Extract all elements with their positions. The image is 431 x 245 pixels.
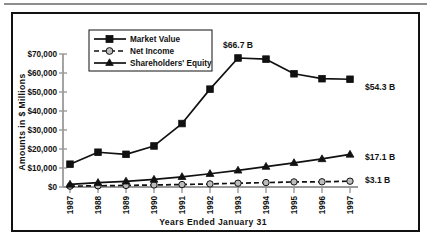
data-point [291,70,298,77]
x-tick-1992: 1992 [206,196,215,215]
data-point [123,151,130,158]
data-point [235,55,242,62]
series-market-value [67,55,354,168]
x-axis-tick-labels: 1987 1988 1989 1990 1991 1992 1993 1994 … [66,196,355,215]
chart-frame: $70,000 $60,000 $50,000 $40,000 $30,000 … [11,12,420,232]
x-tick-1987: 1987 [66,196,75,215]
data-point [319,75,326,82]
y-tick-0: $0 [48,183,58,192]
line-chart: $70,000 $60,000 $50,000 $40,000 $30,000 … [13,14,418,230]
x-tick-1990: 1990 [150,196,159,215]
data-point [207,181,213,187]
data-point [67,161,74,168]
x-tick-1989: 1989 [122,196,131,215]
y-tick-40000: $40,000 [27,107,57,116]
annotation-net-income-end: $3.1 B [365,175,390,185]
x-tick-1991: 1991 [178,196,187,215]
x-tick-1994: 1994 [262,196,271,215]
data-point [207,86,214,93]
data-point [151,143,158,150]
data-point [346,150,354,157]
x-tick-1996: 1996 [318,196,327,215]
y-tick-20000: $20,000 [27,145,57,154]
y-tick-50000: $50,000 [27,88,57,97]
legend-label-shareholders-equity: Shareholders' Equity [130,59,212,68]
data-point [95,149,102,156]
data-point [319,179,325,185]
data-point [151,182,157,188]
x-axis-title: Years Ended January 31 [159,217,267,227]
annotation-shareholders-equity-end: $17.1 B [365,152,395,162]
y-tick-70000: $70,000 [27,50,57,59]
y-tick-10000: $10,000 [27,164,57,173]
y-axis-tick-labels: $70,000 $60,000 $50,000 $40,000 $30,000 … [27,50,57,192]
data-point [235,180,241,186]
data-point [347,178,353,184]
x-axis [63,187,358,193]
x-tick-1993: 1993 [234,196,243,215]
y-tick-30000: $30,000 [27,126,57,135]
annotation-peak-market-value: $66.7 B [223,40,253,50]
x-tick-1995: 1995 [290,196,299,215]
data-point [179,181,185,187]
legend-label-net-income: Net Income [130,47,175,56]
x-tick-1997: 1997 [346,196,355,215]
annotation-market-value-end: $54.3 B [365,82,395,92]
y-tick-60000: $60,000 [27,69,57,78]
chart-screenshot: $70,000 $60,000 $50,000 $40,000 $30,000 … [0,0,431,245]
data-point [347,76,354,83]
data-point [179,120,186,127]
legend: Market Value Net Income Shareholders' Eq… [89,30,212,71]
legend-label-market-value: Market Value [130,35,181,44]
x-tick-1988: 1988 [94,196,103,215]
top-divider-rule [4,3,427,5]
legend-item-market-value[interactable]: Market Value [94,35,181,44]
y-axis [59,54,67,187]
data-point [263,56,270,63]
data-point [263,179,269,185]
data-point [291,179,297,185]
y-axis-title: Amounts in $ Millions [17,73,27,170]
